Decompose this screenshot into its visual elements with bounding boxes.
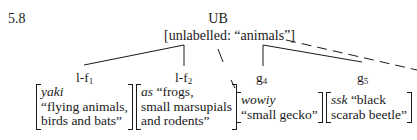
root-label-text: UB: [208, 11, 227, 27]
gloss-inline: “black: [348, 92, 387, 107]
example-number: 5.8: [8, 11, 26, 27]
node-label-g4: g4: [256, 70, 267, 86]
node-label-g5: g5: [357, 70, 368, 86]
gloss-line: “flying animals,: [41, 100, 128, 115]
root-node-description: [unlabelled: “animals”]: [164, 28, 295, 44]
gloss-inline: “frogs,: [153, 84, 194, 99]
gloss-line: and rodents”: [141, 114, 232, 129]
gloss-box-as: as “frogs, small marsupials and rodents”: [136, 85, 237, 129]
gloss-word: ssk: [331, 92, 348, 107]
gloss-box-wowiy: wowiy “small gecko”: [236, 93, 323, 122]
gloss-box-ssk: ssk “black scarab beetle”: [326, 93, 412, 122]
gloss-word: as: [141, 84, 153, 99]
gloss-word: wowiy: [241, 93, 318, 108]
gloss-line: scarab beetle”: [331, 108, 407, 123]
gloss-line: small marsupials: [141, 100, 232, 115]
gloss-line: birds and bats”: [41, 114, 128, 129]
node-label-lf1: l-f1: [76, 70, 93, 86]
gloss-word: yaki: [41, 85, 128, 100]
gloss-box-yaki: yaki “flying animals, birds and bats”: [36, 85, 133, 129]
gloss-line: “small gecko”: [241, 108, 318, 123]
